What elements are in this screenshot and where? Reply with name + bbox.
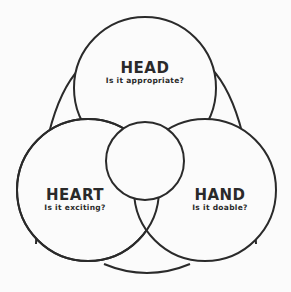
hand-label: HAND Is it doable? xyxy=(175,187,265,213)
outer-bottom-arc xyxy=(104,264,190,273)
heart-label: HEART Is it exciting? xyxy=(30,187,120,213)
head-title: HEAD xyxy=(95,60,195,76)
hand-title: HAND xyxy=(175,187,265,203)
venn-diagram xyxy=(0,0,291,292)
hand-question: Is it doable? xyxy=(175,203,265,213)
heart-question: Is it exciting? xyxy=(30,203,120,213)
heart-title: HEART xyxy=(30,187,120,203)
head-label: HEAD Is it appropriate? xyxy=(95,60,195,86)
head-question: Is it appropriate? xyxy=(95,76,195,86)
